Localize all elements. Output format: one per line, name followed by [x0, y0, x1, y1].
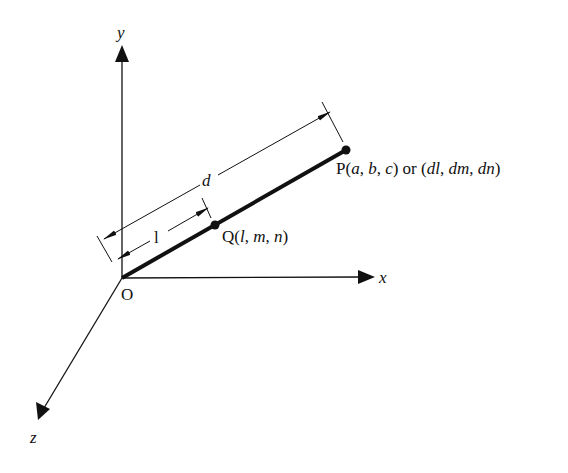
dimension-d-label: d	[202, 171, 211, 190]
y-axis	[115, 45, 129, 278]
origin-label: O	[121, 285, 133, 304]
dimension-l-tick-end	[202, 198, 211, 218]
vector-op	[122, 150, 346, 278]
dimension-l-label: l	[154, 228, 159, 247]
coordinate-diagram: y x z O d l Q(l, m, n) P(a, b, c) or (dl…	[0, 0, 568, 473]
y-axis-label: y	[115, 23, 125, 42]
z-axis-arrow-icon	[36, 402, 50, 420]
point-p-dot	[342, 146, 351, 155]
x-axis-arrow-icon	[358, 270, 375, 284]
dimension-d-tick-end	[322, 102, 343, 142]
x-axis-label: x	[378, 268, 387, 287]
dimension-d-tick-start	[97, 236, 112, 262]
z-axis-label: z	[29, 428, 37, 447]
y-axis-arrow-icon	[115, 45, 129, 62]
z-axis	[36, 278, 122, 420]
dimension-d	[97, 102, 343, 262]
x-axis	[122, 270, 375, 284]
point-q-dot	[211, 221, 220, 230]
dimension-l	[118, 198, 211, 259]
point-p-label: P(a, b, c) or (dl, dm, dn)	[336, 159, 500, 178]
point-q-label: Q(l, m, n)	[222, 227, 288, 246]
